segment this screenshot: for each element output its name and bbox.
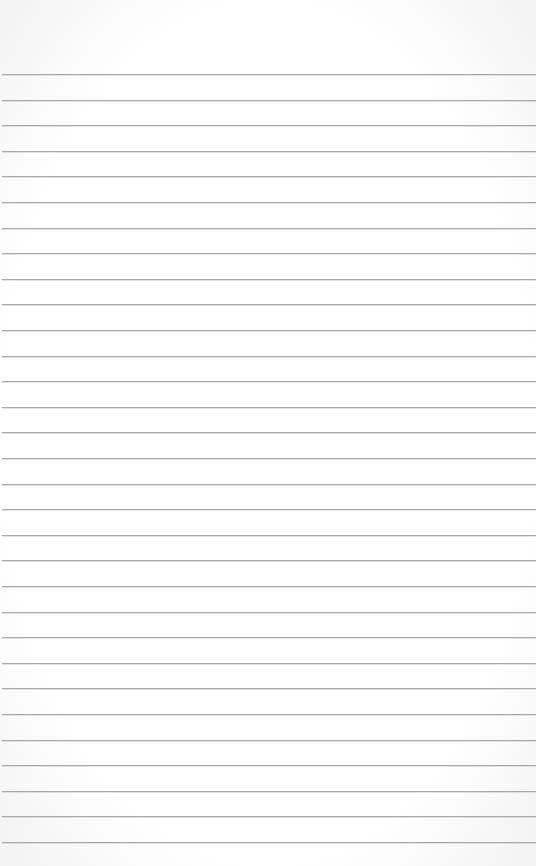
ruled-line	[2, 509, 536, 510]
ruled-line	[2, 612, 536, 613]
ruled-line	[2, 842, 536, 843]
ruled-line	[2, 356, 536, 357]
ruled-line	[2, 791, 536, 792]
ruled-line	[2, 100, 536, 101]
ruled-line	[2, 253, 536, 254]
ruled-line	[2, 432, 536, 433]
ruled-line	[2, 176, 536, 177]
ruled-line	[2, 740, 536, 741]
ruled-line	[2, 330, 536, 331]
ruled-line	[2, 484, 536, 485]
ruled-line	[2, 304, 536, 305]
ruled-line	[2, 279, 536, 280]
ruled-line	[2, 816, 536, 817]
ruled-line	[2, 151, 536, 152]
ruled-line	[2, 228, 536, 229]
ruled-line	[2, 202, 536, 203]
ruled-line	[2, 381, 536, 382]
ruled-line	[2, 688, 536, 689]
ruled-line	[2, 407, 536, 408]
ruled-line	[2, 586, 536, 587]
ruled-line	[2, 458, 536, 459]
ruled-line	[2, 765, 536, 766]
ruled-line	[2, 125, 536, 126]
ruled-line	[2, 535, 536, 536]
ruled-line	[2, 663, 536, 664]
lined-paper-sheet	[0, 0, 536, 866]
ruled-line	[2, 714, 536, 715]
ruled-line	[2, 560, 536, 561]
ruled-line	[2, 637, 536, 638]
ruled-line	[2, 74, 536, 75]
